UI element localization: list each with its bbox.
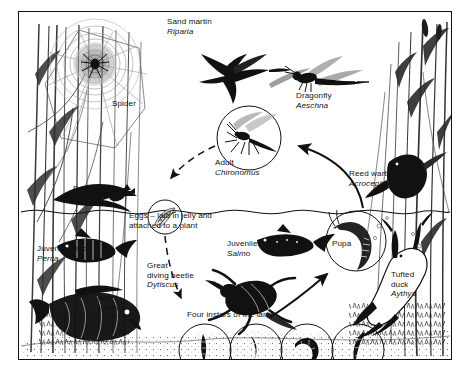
diagram-frame: Sand martin Riparia Spider Dragonfly Aes… bbox=[18, 11, 452, 360]
adult-chironomus-illustration bbox=[225, 112, 277, 155]
label-four-instars: Four instars of the larva bbox=[187, 310, 275, 320]
label-juvenile-perch: Juvenile perch Perca bbox=[37, 244, 91, 263]
label-eggs: Eggs – laid in jelly and attached to a p… bbox=[129, 211, 212, 230]
reed-seed-heads bbox=[421, 19, 443, 41]
label-juvenile-trout: Juvenile trout Salmo bbox=[227, 239, 277, 258]
figure-canvas: Sand martin Riparia Spider Dragonfly Aes… bbox=[0, 0, 466, 379]
label-carp: Carp Cyprinus bbox=[92, 293, 125, 312]
label-reed-warbler: Reed warbler Acrocephalus bbox=[349, 169, 399, 188]
arrow-adult-to-eggs bbox=[171, 146, 215, 178]
label-adult-chironomus: Adult Chironomus bbox=[215, 158, 260, 177]
label-pupa: Pupa bbox=[332, 239, 351, 249]
label-great-diving-beetle: Great diving beetle Dytiscus bbox=[147, 261, 194, 290]
label-dragonfly: Dragonfly Aeschna bbox=[296, 91, 332, 110]
dragonfly-illustration bbox=[269, 56, 369, 92]
sand-martin-illustration bbox=[199, 54, 291, 104]
label-tufted-duck: Tufted duck Aythya bbox=[391, 270, 416, 299]
label-bat: Bat Myotis bbox=[73, 184, 97, 203]
label-sand-martin: Sand martin Riparia bbox=[167, 17, 212, 36]
label-spider: Spider bbox=[112, 99, 136, 109]
